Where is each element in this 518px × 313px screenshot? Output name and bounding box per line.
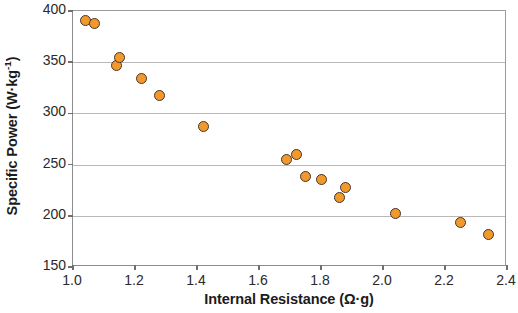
y-tick-mark: [68, 164, 73, 166]
x-tick-label: 1.4: [170, 272, 222, 288]
x-tick-mark: [258, 265, 260, 270]
y-axis-title-main: Specific Power (W·kg: [4, 70, 20, 215]
x-tick-mark: [134, 265, 136, 270]
x-tick-mark: [320, 265, 322, 270]
gridline: [73, 62, 505, 63]
x-tick-label: 2.4: [480, 272, 518, 288]
y-tick-mark: [68, 113, 73, 115]
data-point: [334, 192, 345, 203]
scatter-chart-figure: Specific Power (W·kg-1) Internal Resista…: [0, 0, 518, 313]
data-point: [390, 208, 401, 219]
x-axis-title: Internal Resistance (Ω·g): [72, 291, 506, 307]
plot-area: [72, 10, 506, 266]
data-point: [291, 149, 302, 160]
x-tick-mark: [506, 265, 508, 270]
data-point: [136, 73, 147, 84]
x-tick-label: 2.2: [418, 272, 470, 288]
gridline: [73, 113, 505, 114]
y-tick-label: 200: [8, 206, 66, 222]
y-tick-mark: [68, 215, 73, 217]
x-tick-mark: [196, 265, 198, 270]
x-tick-mark: [72, 265, 74, 270]
data-point: [114, 52, 125, 63]
data-point: [483, 229, 494, 240]
data-point: [316, 174, 327, 185]
x-tick-label: 1.6: [232, 272, 284, 288]
y-tick-label: 400: [8, 1, 66, 17]
y-tick-label: 150: [8, 257, 66, 273]
data-point: [89, 18, 100, 29]
x-tick-label: 1.2: [108, 272, 160, 288]
gridline: [73, 165, 505, 166]
x-tick-label: 1.0: [46, 272, 98, 288]
data-point: [198, 121, 209, 132]
y-tick-label: 300: [8, 103, 66, 119]
data-point: [300, 171, 311, 182]
y-axis-title: Specific Power (W·kg-1): [2, 0, 22, 272]
x-tick-label: 1.8: [294, 272, 346, 288]
x-tick-label: 2.0: [356, 272, 408, 288]
y-tick-label: 250: [8, 155, 66, 171]
x-tick-mark: [382, 265, 384, 270]
y-tick-mark: [68, 10, 73, 12]
data-point: [154, 90, 165, 101]
data-point: [455, 217, 466, 228]
y-tick-label: 350: [8, 52, 66, 68]
gridline: [73, 216, 505, 217]
y-tick-mark: [68, 61, 73, 63]
data-point: [340, 182, 351, 193]
x-tick-mark: [444, 265, 446, 270]
